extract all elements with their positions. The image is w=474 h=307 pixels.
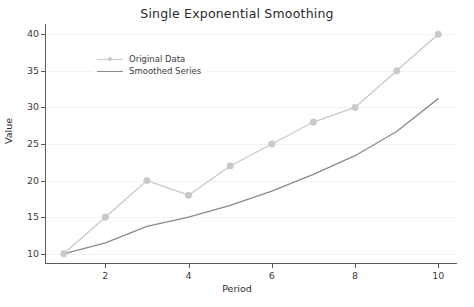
legend-swatch-smoothed-series <box>97 66 123 76</box>
chart-title: Single Exponential Smoothing <box>0 6 474 21</box>
y-tick-label: 10 <box>27 249 39 259</box>
data-point <box>310 119 316 125</box>
data-point <box>185 192 191 198</box>
data-point <box>61 251 67 257</box>
legend-label-smoothed-series: Smoothed Series <box>129 67 201 76</box>
y-axis-label: Value <box>3 118 14 144</box>
data-point <box>227 163 233 169</box>
data-point <box>144 177 150 183</box>
x-tick-mark <box>438 264 439 268</box>
y-tick-label: 35 <box>27 66 39 76</box>
x-tick-mark <box>105 264 106 268</box>
x-tick-mark <box>189 264 190 268</box>
series-smoothed-series <box>64 99 439 254</box>
y-tick-label: 15 <box>27 212 39 222</box>
legend-label-original-data: Original Data <box>129 55 185 64</box>
x-tick-label: 6 <box>269 271 275 281</box>
x-tick-label: 2 <box>102 271 108 281</box>
y-tick-label: 20 <box>27 176 39 186</box>
y-tick-label: 25 <box>27 139 39 149</box>
data-point <box>435 31 441 37</box>
x-tick-label: 8 <box>352 271 358 281</box>
x-tick-mark <box>355 264 356 268</box>
x-tick-label: 10 <box>432 271 444 281</box>
chart-legend: Original Data Smoothed Series <box>93 51 206 80</box>
data-point <box>269 141 275 147</box>
plot-area: 10152025303540 246810 Original Data Smoo… <box>45 24 457 264</box>
x-tick-label: 4 <box>186 271 192 281</box>
legend-item-smoothed-series: Smoothed Series <box>97 65 201 77</box>
legend-item-original-data: Original Data <box>97 53 201 65</box>
data-point <box>393 68 399 74</box>
legend-swatch-original-data <box>97 54 123 64</box>
data-point <box>102 214 108 220</box>
line-smoothed-series <box>64 99 439 254</box>
y-tick-label: 40 <box>27 29 39 39</box>
y-tick-label: 30 <box>27 103 39 113</box>
x-tick-mark <box>272 264 273 268</box>
chart-screenshot: Single Exponential Smoothing 10152025303… <box>0 0 474 307</box>
x-axis-label: Period <box>0 283 474 294</box>
data-point <box>352 104 358 110</box>
